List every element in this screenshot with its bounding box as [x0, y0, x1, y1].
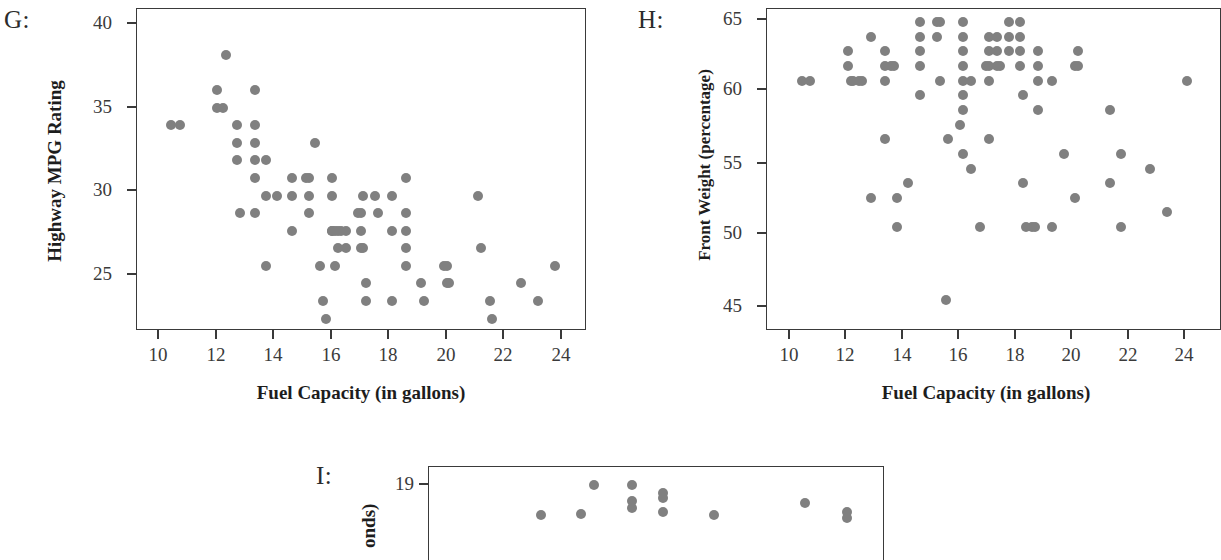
data-point [903, 178, 913, 188]
data-point [1105, 178, 1115, 188]
panel-g-xtick-22: 22 [483, 344, 523, 366]
panel-g-xtick-24: 24 [541, 344, 581, 366]
data-point [401, 173, 411, 183]
panel-h-ytick-55: 55 [716, 152, 742, 174]
data-point [1073, 46, 1083, 56]
data-point [416, 278, 426, 288]
panel-h-xtick-mark [901, 330, 903, 339]
data-point [627, 503, 637, 513]
data-point [287, 173, 297, 183]
panel-h-xtick-mark [1127, 330, 1129, 339]
data-point [658, 493, 668, 503]
panel-h-x-axis-label: Fuel Capacity (in gallons) [766, 382, 1206, 404]
data-point [866, 193, 876, 203]
data-point [915, 17, 925, 27]
panel-i-ytick-mark [419, 483, 428, 485]
data-point [341, 243, 351, 253]
data-point [915, 32, 925, 42]
data-point [1145, 164, 1155, 174]
panel-g-xtick-mark [215, 330, 217, 339]
data-point [485, 296, 495, 306]
panel-h-ytick-45: 45 [716, 295, 742, 317]
panel-h-points [767, 9, 1220, 329]
data-point [250, 208, 260, 218]
data-point [272, 191, 282, 201]
panel-g-ytick-35: 35 [86, 96, 112, 118]
data-point [533, 296, 543, 306]
data-point [387, 226, 397, 236]
data-point [1018, 90, 1028, 100]
data-point [857, 76, 867, 86]
data-point [516, 278, 526, 288]
panel-h-xtick-22: 22 [1108, 344, 1148, 366]
panel-g-xtick-16: 16 [311, 344, 351, 366]
panel-i: I: onds) 19 [300, 440, 900, 520]
data-point [935, 17, 945, 27]
panel-g-ytick-30: 30 [86, 179, 112, 201]
data-point [1015, 17, 1025, 27]
panel-g-ytick-25: 25 [86, 263, 112, 285]
data-point [327, 173, 337, 183]
data-point [536, 510, 546, 520]
data-point [975, 222, 985, 232]
data-point [589, 480, 599, 490]
data-point [235, 208, 245, 218]
data-point [1059, 149, 1069, 159]
data-point [935, 76, 945, 86]
data-point [1182, 76, 1192, 86]
data-point [1015, 46, 1025, 56]
panel-g-xtick-mark [560, 330, 562, 339]
data-point [356, 208, 366, 218]
data-point [387, 296, 397, 306]
panel-g-xtick-10: 10 [138, 344, 178, 366]
data-point [232, 138, 242, 148]
panel-g-xtick-mark [445, 330, 447, 339]
data-point [992, 46, 1002, 56]
data-point [1033, 76, 1043, 86]
data-point [221, 50, 231, 60]
data-point [1047, 222, 1057, 232]
panel-h-ytick-mark [757, 305, 766, 307]
panel-h-xtick-mark [1014, 330, 1016, 339]
panel-h-xtick-20: 20 [1051, 344, 1091, 366]
data-point [361, 296, 371, 306]
data-point [358, 243, 368, 253]
data-point [880, 76, 890, 86]
data-point [387, 191, 397, 201]
panel-g: G: Highway MPG Rating 40 35 30 25 10 12 … [0, 0, 610, 420]
data-point [321, 314, 331, 324]
data-point [1033, 46, 1043, 56]
data-point [932, 32, 942, 42]
data-point [805, 76, 815, 86]
data-point [1116, 222, 1126, 232]
data-point [576, 509, 586, 519]
data-point [218, 103, 228, 113]
data-point [401, 208, 411, 218]
data-point [330, 261, 340, 271]
data-point [842, 513, 852, 523]
panel-h-plot-area [766, 8, 1221, 330]
data-point [250, 155, 260, 165]
panel-g-xtick-mark [387, 330, 389, 339]
panel-g-y-axis-label: Highway MPG Rating [44, 76, 66, 266]
data-point [361, 278, 371, 288]
data-point [1116, 149, 1126, 159]
panel-g-xtick-12: 12 [196, 344, 236, 366]
data-point [880, 46, 890, 56]
panel-h: H: Front Weight (percentage) 65 60 55 50… [620, 0, 1215, 420]
data-point [487, 314, 497, 324]
panel-i-ytick-19: 19 [388, 473, 414, 495]
data-point [1015, 61, 1025, 71]
data-point [310, 138, 320, 148]
panel-h-xtick-18: 18 [995, 344, 1035, 366]
data-point [304, 191, 314, 201]
panel-g-xtick-mark [502, 330, 504, 339]
data-point [250, 138, 260, 148]
data-point [627, 480, 637, 490]
panel-h-ytick-60: 60 [716, 78, 742, 100]
data-point [992, 32, 1002, 42]
data-point [356, 226, 366, 236]
data-point [889, 61, 899, 71]
data-point [1162, 207, 1172, 217]
data-point [1004, 32, 1014, 42]
